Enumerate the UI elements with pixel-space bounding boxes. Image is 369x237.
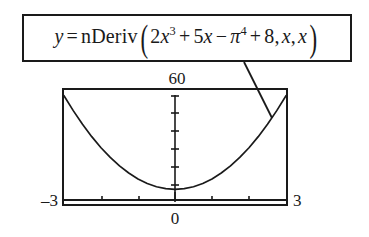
formula-var-cubic: x xyxy=(160,25,169,47)
formula-close-paren: ) xyxy=(309,29,317,49)
formula-equals: = xyxy=(63,25,80,47)
formula-exp-cubic: 3 xyxy=(170,25,176,39)
formula-plus-1: + xyxy=(176,25,193,47)
formula-expression: y=nDeriv(2x3+5x−π4+8,x,x) xyxy=(54,26,319,49)
figure-root: y=nDeriv(2x3+5x−π4+8,x,x) xyxy=(0,0,369,237)
formula-arg-var: x xyxy=(282,25,291,47)
formula-pi-symbol: π xyxy=(230,25,240,47)
formula-comma-1: , xyxy=(275,25,282,47)
formula-coef-cubic: 2 xyxy=(150,25,160,47)
formula-plus-2: + xyxy=(247,25,264,47)
formula-arg-point: x xyxy=(298,25,307,47)
formula-var-linear: x xyxy=(204,25,213,47)
formula-box: y=nDeriv(2x3+5x−π4+8,x,x) xyxy=(22,14,352,62)
formula-exp-pi: 4 xyxy=(240,25,246,39)
formula-comma-2: , xyxy=(291,25,298,47)
formula-constant: 8 xyxy=(264,25,274,47)
formula-open-paren: ( xyxy=(140,29,148,49)
formula-minus-1: − xyxy=(213,25,230,47)
formula-coef-linear: 5 xyxy=(193,25,203,47)
formula-function-name: nDeriv xyxy=(81,25,138,47)
leader-line xyxy=(244,62,272,118)
